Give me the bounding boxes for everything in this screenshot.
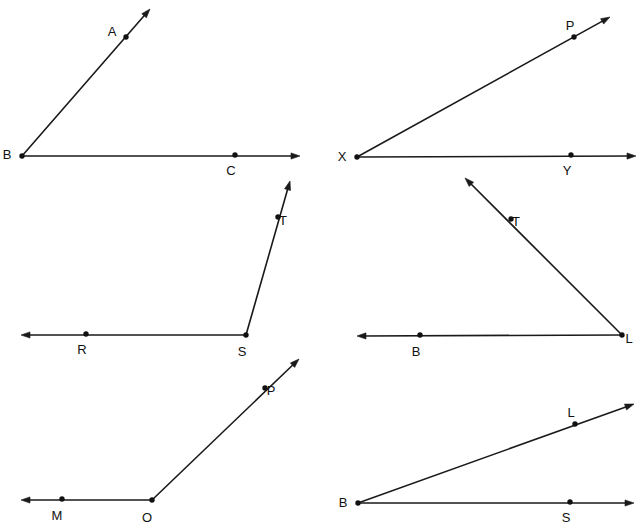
ray-om-arrowhead-icon xyxy=(21,497,30,503)
ray-lt xyxy=(469,182,622,335)
angle-abc-figure: ABC xyxy=(3,9,300,178)
ray-sr-arrowhead-icon xyxy=(21,332,30,338)
point-label-a: A xyxy=(108,24,117,39)
point-label-y: Y xyxy=(563,163,572,178)
point-dot-y xyxy=(568,152,573,157)
point-dot-s xyxy=(567,499,572,504)
point-dot-r xyxy=(83,331,88,336)
ray-xy xyxy=(357,156,631,157)
point-dot-b xyxy=(355,500,360,505)
point-dot-c xyxy=(232,152,237,157)
ray-bc-arrowhead-icon xyxy=(291,153,300,159)
angle-mop-figure: PMO xyxy=(21,359,299,525)
point-dot-b xyxy=(19,153,24,158)
ray-st-arrowhead-icon xyxy=(285,181,291,191)
point-dot-a xyxy=(123,34,128,39)
point-dot-p xyxy=(571,34,576,39)
point-dot-s xyxy=(243,332,248,337)
ray-ba xyxy=(22,13,147,156)
point-label-l: L xyxy=(567,405,574,420)
ray-xp xyxy=(357,19,606,157)
point-label-t: T xyxy=(279,213,287,228)
ray-lb-arrowhead-icon xyxy=(357,333,366,339)
ray-bl-arrowhead-icon xyxy=(624,404,634,410)
angle-lbs-figure: LBS xyxy=(339,404,634,525)
point-label-p: P xyxy=(566,18,575,33)
angle-pxy-figure: PXY xyxy=(338,17,636,178)
point-label-o: O xyxy=(142,510,152,525)
point-dot-x xyxy=(354,154,359,159)
ray-bl xyxy=(358,406,629,503)
point-label-b: B xyxy=(3,147,12,162)
point-label-b: B xyxy=(339,495,348,510)
point-label-r: R xyxy=(77,342,86,357)
point-label-x: X xyxy=(338,149,347,164)
point-label-m: M xyxy=(52,508,63,523)
point-label-c: C xyxy=(226,163,235,178)
angle-tlb-figure: TBL xyxy=(357,178,633,359)
ray-lb xyxy=(362,335,622,336)
point-label-s: S xyxy=(562,510,571,525)
ray-xy-arrowhead-icon xyxy=(627,153,636,159)
geometry-figure-sheet: ABCPXYTRSTBLPMOLBS xyxy=(0,0,640,528)
ray-bs-arrowhead-icon xyxy=(625,500,634,506)
point-dot-l xyxy=(572,421,577,426)
ray-xp-arrowhead-icon xyxy=(601,17,610,24)
point-label-b: B xyxy=(412,344,421,359)
point-label-t: T xyxy=(512,214,520,229)
angles-diagram-canvas: ABCPXYTRSTBLPMOLBS xyxy=(0,0,640,528)
point-label-l: L xyxy=(625,331,632,346)
point-dot-b xyxy=(417,332,422,337)
point-dot-l xyxy=(619,332,624,337)
ray-st xyxy=(246,186,289,335)
angle-rst-figure: TRS xyxy=(21,181,291,359)
point-label-p: P xyxy=(267,383,276,398)
point-label-s: S xyxy=(238,344,247,359)
point-dot-m xyxy=(59,496,64,501)
point-dot-o xyxy=(149,497,154,502)
